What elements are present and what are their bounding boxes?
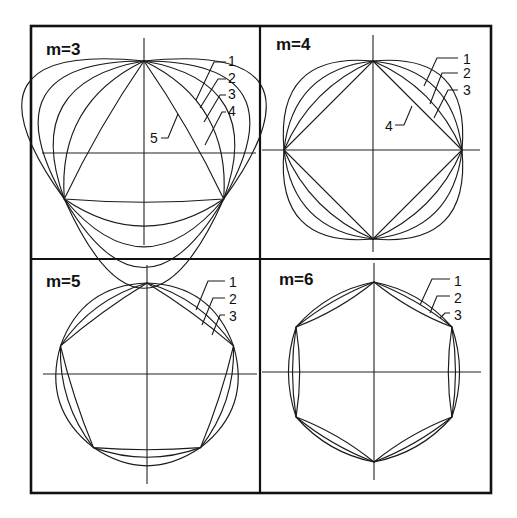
curve-label: 1: [228, 53, 236, 69]
callout-leader: [430, 296, 450, 313]
panel-m3: m=312345: [22, 38, 267, 288]
curve-label: 4: [228, 103, 236, 119]
panel-title: m=6: [279, 270, 314, 289]
curve-label: 3: [454, 307, 462, 323]
panel-m4: m=41234: [262, 35, 480, 252]
callout-leader: [395, 106, 412, 125]
callout-leader: [161, 114, 178, 138]
panel-title: m=3: [46, 40, 81, 59]
curve-label: 2: [454, 290, 462, 306]
curve-label: 1: [229, 274, 237, 290]
curve-label: 4: [385, 118, 393, 134]
curve-label: 1: [454, 273, 462, 289]
callout-leader: [430, 73, 458, 104]
panel-m5: m=5123: [43, 265, 257, 484]
panel-title: m=5: [46, 272, 81, 291]
curve-label: 3: [229, 308, 237, 324]
four-panel-figure: m=312345 m=41234 m=5123 m=6123: [0, 0, 517, 518]
callout-leader: [204, 95, 226, 122]
panel-title: m=4: [276, 35, 311, 54]
curve-label: 2: [229, 291, 237, 307]
curve-label: 5: [150, 130, 158, 146]
callout-leader: [196, 281, 225, 310]
curve-label: 2: [463, 65, 471, 81]
curve-label: 2: [228, 70, 236, 86]
curve-label: 3: [463, 82, 471, 98]
curve-label: 3: [228, 86, 236, 102]
panel-m6: m=6123: [262, 263, 481, 480]
